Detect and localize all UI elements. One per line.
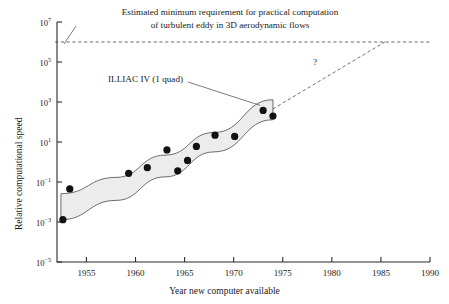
plot-canvas bbox=[0, 0, 449, 304]
axis-lines bbox=[57, 22, 430, 262]
x-tick-label: 1985 bbox=[361, 268, 401, 278]
x-tick-label: 1975 bbox=[263, 268, 303, 278]
y-tick-label: 105 bbox=[18, 56, 51, 68]
data-point bbox=[184, 157, 191, 164]
x-tick-label: 1970 bbox=[214, 268, 254, 278]
illiac-annotation: ILLIAC IV (1 quad) bbox=[108, 74, 183, 84]
requirement-annotation: Estimated minimum requirement for practi… bbox=[70, 6, 390, 31]
data-point bbox=[193, 143, 200, 150]
projection-question-mark: ? bbox=[313, 57, 317, 67]
trend-band bbox=[61, 100, 273, 220]
x-tick-label: 1980 bbox=[312, 268, 352, 278]
requirement-annotation-line1: Estimated minimum requirement for practi… bbox=[70, 6, 390, 19]
x-tick-label: 1955 bbox=[66, 268, 106, 278]
data-point bbox=[174, 167, 181, 174]
data-point bbox=[144, 164, 151, 171]
data-point bbox=[231, 133, 238, 140]
data-point bbox=[125, 170, 132, 177]
y-tick-label: 107 bbox=[18, 16, 51, 28]
y-axis-title: Relative computational speed bbox=[14, 118, 24, 230]
x-axis-title: Year new computer available bbox=[0, 286, 449, 296]
chart-figure: 10710510310110−110−310−5 195519601965197… bbox=[0, 0, 449, 304]
x-tick-label: 1990 bbox=[410, 268, 449, 278]
requirement-annotation-line2: of turbulent eddy in 3D aerodynamic flow… bbox=[70, 19, 390, 32]
axis-ticks bbox=[57, 22, 430, 262]
data-point bbox=[211, 132, 218, 139]
data-point bbox=[59, 216, 66, 223]
data-point bbox=[66, 185, 73, 192]
x-tick-label: 1960 bbox=[116, 268, 156, 278]
y-tick-label: 10−5 bbox=[18, 256, 51, 268]
x-tick-label: 1965 bbox=[165, 268, 205, 278]
annotation-leader-lines bbox=[64, 26, 260, 105]
y-tick-label: 103 bbox=[18, 96, 51, 108]
data-point bbox=[260, 107, 267, 114]
data-point bbox=[269, 112, 276, 119]
data-point bbox=[163, 146, 170, 153]
